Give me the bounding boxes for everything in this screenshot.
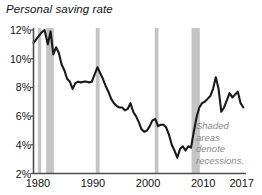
x-axis-tick-label: 1990 bbox=[81, 177, 105, 189]
recession-band bbox=[96, 28, 100, 174]
x-axis-tick-label: 1980 bbox=[26, 177, 50, 189]
x-axis-tick-label: 2017 bbox=[229, 177, 253, 189]
annotation-line: denote bbox=[196, 143, 258, 155]
annotation-line: recessions. bbox=[196, 155, 258, 167]
shaded-areas-annotation: Shadedareasdenoterecessions. bbox=[196, 120, 258, 166]
personal-saving-rate-chart: Personal saving rate 2%4%6%8%10%12% 1980… bbox=[0, 0, 262, 195]
x-axis-tick-label: 2010 bbox=[191, 177, 215, 189]
annotation-line: Shaded bbox=[196, 120, 258, 132]
recession-band bbox=[155, 28, 159, 174]
recession-band bbox=[38, 28, 41, 174]
x-axis-tick-label: 2000 bbox=[136, 177, 160, 189]
annotation-line: areas bbox=[196, 132, 258, 144]
